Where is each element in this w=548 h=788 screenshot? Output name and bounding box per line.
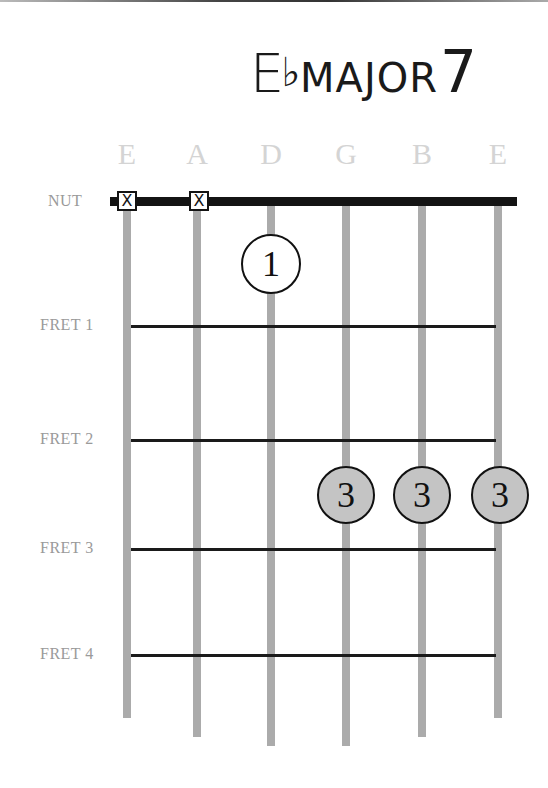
string-low-e [123, 204, 131, 718]
fret-label-2: FRET 2 [40, 430, 94, 448]
fret-label-4: FRET 4 [40, 645, 94, 663]
string-label-g: G [326, 137, 366, 171]
finger-dot-d-string: 1 [241, 234, 301, 294]
chord-quality: MAJOR [300, 55, 438, 101]
chord-root: E [250, 42, 283, 105]
chord-title: E♭MAJOR7 [0, 38, 548, 106]
top-border [0, 0, 548, 2]
string-label-high-e: E [478, 137, 518, 171]
string-label-d: D [251, 137, 291, 171]
string-high-e [494, 204, 502, 718]
mute-icon-a: X [189, 191, 209, 211]
mute-icon-low-e: X [117, 191, 137, 211]
flat-accidental: ♭ [281, 49, 300, 95]
string-a [193, 204, 201, 737]
nut-label: NUT [48, 192, 82, 210]
finger-dot-b-string: 3 [393, 466, 451, 524]
fret-3 [131, 548, 496, 551]
string-label-low-e: E [107, 137, 147, 171]
fret-1 [131, 325, 496, 328]
fret-label-3: FRET 3 [40, 539, 94, 557]
fret-2 [131, 439, 496, 442]
string-label-b: B [402, 137, 442, 171]
finger-dot-g-string: 3 [317, 466, 375, 524]
chord-extension: 7 [440, 38, 477, 106]
fret-4 [131, 654, 496, 657]
string-label-a: A [177, 137, 217, 171]
fret-label-1: FRET 1 [40, 316, 94, 334]
finger-dot-high-e-string: 3 [471, 466, 529, 524]
nut [110, 197, 517, 206]
